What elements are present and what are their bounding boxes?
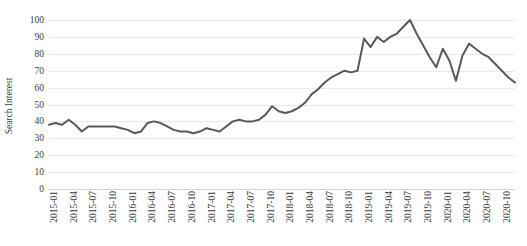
y-axis-tick-label: 80: [35, 49, 45, 59]
chart-title-remnant: [0, 0, 527, 1]
y-axis-tick-label: 0: [39, 184, 44, 194]
y-axis-tick-label: 40: [35, 116, 45, 126]
x-axis-tick-label: 2018-10: [344, 191, 354, 223]
x-axis-tick-label: 2015-10: [108, 191, 118, 223]
y-axis-tick-label: 70: [35, 66, 45, 76]
x-axis-tick-label: 2018-07: [325, 191, 335, 223]
x-axis-tick-label: 2019-04: [384, 191, 394, 223]
y-axis-tick-label: 30: [35, 133, 45, 143]
x-axis-tick-label: 2017-04: [226, 191, 236, 223]
x-axis-tick-label: 2015-07: [88, 191, 98, 223]
y-axis-tick-label: 50: [35, 100, 45, 110]
y-axis-tick-label: 90: [35, 32, 45, 42]
y-axis-title: Search Interest: [2, 46, 16, 166]
x-axis-tick-label: 2020-04: [462, 191, 472, 223]
x-axis-tick-label: 2017-07: [246, 191, 256, 223]
x-axis-tick-label: 2020-01: [443, 191, 453, 223]
x-axis-tick-label: 2016-04: [147, 191, 157, 223]
y-axis-tick-label: 20: [35, 150, 45, 160]
x-axis-tick-label: 2015-04: [69, 191, 79, 223]
y-axis-tick-label: 60: [35, 83, 45, 93]
x-axis-tick-label: 2015-01: [49, 191, 59, 223]
x-axis-tick-label: 2016-07: [167, 191, 177, 223]
series-line: [49, 20, 515, 189]
plot-area: [49, 20, 515, 189]
x-axis-tick-label: 2017-10: [266, 191, 276, 223]
x-axis-tick-label: 2019-10: [423, 191, 433, 223]
y-axis-tick-label: 100: [30, 15, 44, 25]
x-axis-tick-label: 2020-10: [502, 191, 512, 223]
y-axis-title-text: Search Interest: [4, 78, 14, 135]
y-axis-tick-labels: 1009080706050403020100: [16, 14, 44, 190]
x-axis-tick-label: 2018-04: [305, 191, 315, 223]
y-axis-tick-label: 10: [35, 167, 45, 177]
x-axis-tick-label: 2016-10: [187, 191, 197, 223]
x-axis-tick-label: 2018-01: [285, 191, 295, 223]
x-axis-tick-labels: 2015-012015-042015-072015-102016-012016-…: [49, 191, 515, 246]
x-axis-tick-label: 2017-01: [207, 191, 217, 223]
line-chart: Search Interest 1009080706050403020100 2…: [0, 0, 527, 246]
x-axis-tick-label: 2020-07: [482, 191, 492, 223]
x-axis-tick-label: 2019-01: [364, 191, 374, 223]
x-axis-tick-label: 2016-01: [128, 191, 138, 223]
x-axis-tick-label: 2019-07: [403, 191, 413, 223]
